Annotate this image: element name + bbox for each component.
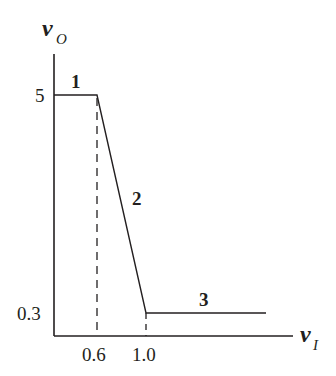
- y-axis-label-subscript: O: [56, 31, 67, 47]
- transfer-characteristic-chart: v O v I 5 0.3 0.6 1.0 1 2 3: [0, 0, 336, 376]
- region-label-2: 2: [132, 188, 142, 209]
- region-label-3: 3: [199, 289, 209, 310]
- region-label-1: 1: [71, 71, 81, 92]
- transfer-curve: [54, 95, 266, 313]
- x-axis-label: v: [300, 321, 311, 347]
- y-axis-label: v: [42, 15, 53, 41]
- x-tick-0-6: 0.6: [82, 344, 106, 365]
- x-axis-label-subscript: I: [312, 337, 319, 353]
- x-tick-1-0: 1.0: [132, 344, 156, 365]
- y-tick-5: 5: [35, 85, 45, 106]
- y-tick-0-3: 0.3: [17, 303, 41, 324]
